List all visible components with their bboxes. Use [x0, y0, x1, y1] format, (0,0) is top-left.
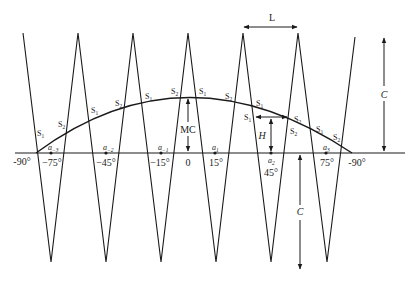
a-label-neg3: a−3: [48, 143, 59, 153]
mc-label: MC: [180, 124, 196, 135]
a-label-3: a3: [323, 143, 330, 153]
deg-75: 75°: [320, 157, 334, 168]
deg-0: 0: [186, 157, 191, 168]
h-label: H: [257, 130, 266, 141]
c-bottom-label: C: [297, 206, 304, 217]
svg-text:S1: S1: [316, 125, 323, 135]
l-label: L: [269, 12, 275, 23]
a-label-2: a2: [268, 156, 275, 166]
deg-45: 45°: [264, 167, 278, 178]
zigzag-line: [23, 33, 355, 262]
svg-text:S1: S1: [91, 106, 98, 116]
svg-text:S1: S1: [37, 129, 44, 139]
a-label-neg2: a−2: [103, 143, 114, 153]
svg-text:S2: S2: [58, 120, 65, 130]
deg-left-end: -90°: [13, 156, 30, 167]
svg-text:S2: S2: [171, 87, 178, 97]
c-top-label: C: [381, 89, 388, 100]
svg-text:S2: S2: [333, 133, 340, 143]
svg-text:S1: S1: [199, 87, 206, 97]
svg-text:S2: S2: [115, 99, 122, 109]
svg-text:S1: S1: [256, 99, 263, 109]
svg-text:S2: S2: [290, 127, 297, 137]
deg-neg45: −45°: [96, 157, 116, 168]
zigzag-arc-diagram: L C C MC H a−3 a−2 a−1 a1 a2 a3 -90° −75…: [0, 0, 415, 283]
svg-text:S1: S1: [244, 113, 251, 123]
deg-15: 15°: [209, 157, 223, 168]
a-label-1: a1: [212, 143, 219, 153]
deg-neg15: −15°: [150, 157, 170, 168]
svg-text:S2: S2: [294, 115, 301, 125]
deg-right-end: -90°: [348, 157, 365, 168]
svg-text:S2: S2: [225, 92, 232, 102]
tick-a2: [269, 151, 272, 154]
deg-neg75: −75°: [42, 157, 62, 168]
a-label-neg1: a−1: [158, 143, 169, 153]
svg-text:S1: S1: [145, 92, 152, 102]
